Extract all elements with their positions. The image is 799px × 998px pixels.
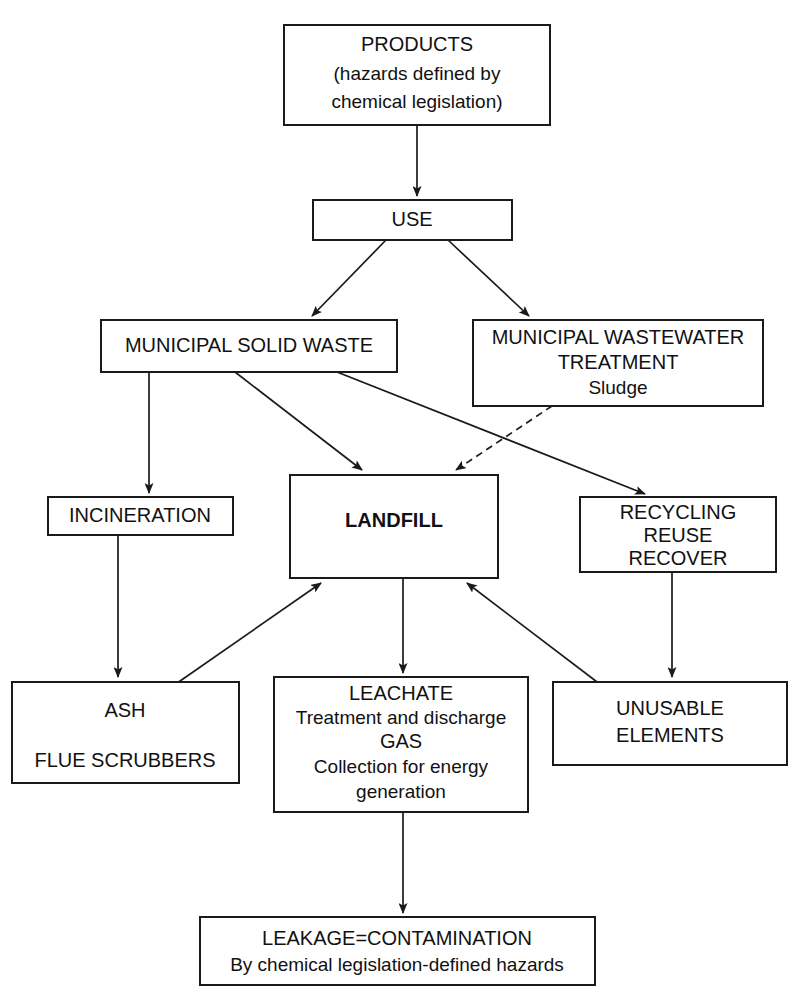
node-recycling-reuse-recover-line1: RECYCLING — [620, 501, 737, 523]
node-leachate-gas-line5: generation — [356, 781, 446, 802]
node-use-line1: USE — [391, 208, 432, 230]
node-leachate-gas-line3: GAS — [380, 730, 422, 752]
node-leachate-gas-line4: Collection for energy — [314, 756, 489, 777]
flowchart-canvas: PRODUCTS (hazards defined by chemical le… — [0, 0, 799, 998]
node-ash-flue-scrubbers-line2: FLUE SCRUBBERS — [34, 749, 215, 771]
flowchart-svg: PRODUCTS (hazards defined by chemical le… — [0, 0, 799, 998]
node-municipal-solid-waste-line1: MUNICIPAL SOLID WASTE — [125, 334, 373, 356]
edge-unusable-to-landfill — [467, 583, 605, 688]
node-incineration-line1: INCINERATION — [69, 504, 211, 526]
node-unusable-elements-line2: ELEMENTS — [616, 724, 724, 746]
node-unusable-elements[interactable]: UNUSABLE ELEMENTS — [553, 682, 787, 765]
node-recycling-reuse-recover[interactable]: RECYCLING REUSE RECOVER — [580, 497, 776, 572]
node-recycling-reuse-recover-line3: RECOVER — [629, 547, 728, 569]
edge-use-to-msw — [312, 240, 386, 316]
node-leachate-gas[interactable]: LEACHATE Treatment and discharge GAS Col… — [274, 677, 528, 812]
edge-ash-to-landfill — [170, 583, 321, 688]
node-ash-flue-scrubbers[interactable]: ASH FLUE SCRUBBERS — [12, 682, 239, 783]
node-municipal-wastewater-treatment[interactable]: MUNICIPAL WASTEWATER TREATMENT Sludge — [473, 320, 763, 406]
node-products-line1: PRODUCTS — [361, 33, 473, 55]
node-leakage-contamination-line1: LEAKAGE=CONTAMINATION — [262, 927, 532, 949]
node-ash-flue-scrubbers-line1: ASH — [104, 699, 145, 721]
node-municipal-wastewater-treatment-line3: Sludge — [588, 377, 647, 398]
node-products-line2: (hazards defined by — [334, 63, 501, 84]
node-municipal-solid-waste[interactable]: MUNICIPAL SOLID WASTE — [101, 320, 397, 372]
node-leachate-gas-line2: Treatment and discharge — [296, 707, 507, 728]
node-landfill[interactable]: LANDFILL — [290, 475, 498, 578]
node-use[interactable]: USE — [313, 200, 512, 240]
node-leakage-contamination-line2: By chemical legislation-defined hazards — [230, 954, 564, 975]
node-landfill-line1: LANDFILL — [345, 509, 443, 531]
edge-use-to-mwt — [448, 240, 529, 316]
node-municipal-wastewater-treatment-line2: TREATMENT — [558, 351, 679, 373]
node-leachate-gas-line1: LEACHATE — [349, 682, 453, 704]
edge-msw-to-landfill — [235, 372, 362, 470]
node-recycling-reuse-recover-line2: REUSE — [644, 524, 713, 546]
node-products[interactable]: PRODUCTS (hazards defined by chemical le… — [284, 25, 550, 125]
node-leakage-contamination[interactable]: LEAKAGE=CONTAMINATION By chemical legisl… — [200, 917, 595, 985]
node-incineration[interactable]: INCINERATION — [48, 497, 233, 535]
node-municipal-wastewater-treatment-line1: MUNICIPAL WASTEWATER — [492, 326, 745, 348]
node-unusable-elements-line1: UNUSABLE — [616, 697, 724, 719]
node-products-line3: chemical legislation) — [331, 91, 502, 112]
